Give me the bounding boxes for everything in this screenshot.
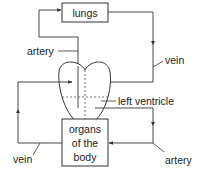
artery-bottom-leader: [153, 143, 164, 152]
vein-bottom-label: vein: [13, 153, 32, 165]
vein-bottom-leader: [33, 143, 40, 155]
organs-label-line2: of the: [72, 137, 98, 149]
artery-top-label: artery: [27, 45, 55, 57]
lungs-label: lungs: [72, 7, 97, 19]
vein-right-label: vein: [165, 54, 184, 66]
organs-label-line1: organs: [69, 123, 101, 135]
artery-arrow-mid: [151, 122, 155, 126]
left-ventricle-label: left ventricle: [118, 95, 174, 107]
organs-label-line3: body: [74, 151, 98, 163]
circulation-diagram: lungs artery vein left ventricle artery …: [0, 0, 200, 194]
artery-bottom-label: artery: [165, 154, 193, 166]
vein-right-leader: [153, 61, 163, 67]
vein-arrow-left-mid: [16, 109, 20, 113]
vein-arrow-mid: [151, 41, 155, 45]
